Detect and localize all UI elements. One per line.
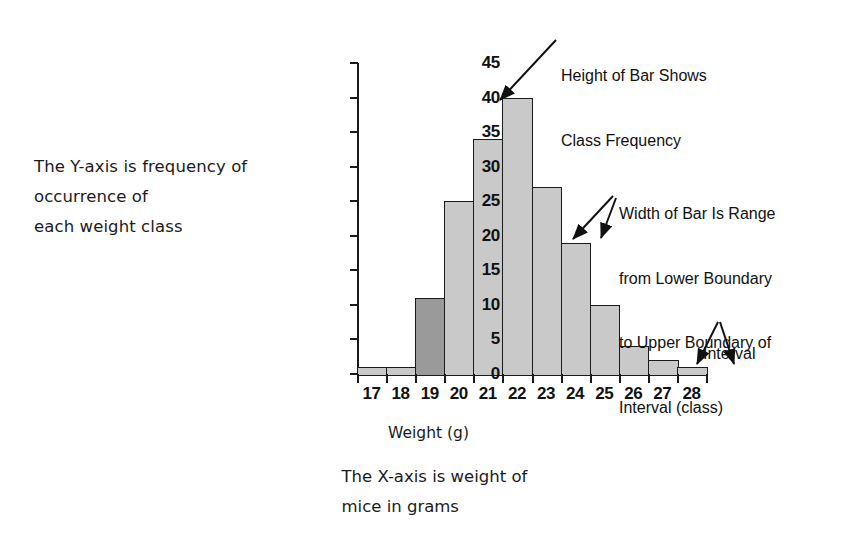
y-axis-explanation-line-1: The Y-axis is frequency of xyxy=(34,152,334,182)
y-tick-label-30: 30 xyxy=(456,157,500,177)
y-tick-label-5: 5 xyxy=(456,329,500,349)
histogram-bar-22 xyxy=(502,98,533,376)
histogram-bar-18 xyxy=(386,367,417,376)
histogram-bar-24 xyxy=(561,243,592,376)
y-tick-label-45: 45 xyxy=(456,53,500,73)
y-tick-35 xyxy=(350,131,358,133)
x-tick-8 xyxy=(590,374,592,383)
y-axis-explanation-note: The Y-axis is frequency of occurrence of… xyxy=(34,152,334,242)
annotation-height-line-1: Height of Bar Shows xyxy=(561,65,707,87)
y-axis-line xyxy=(357,63,359,374)
y-tick-label-10: 10 xyxy=(456,295,500,315)
x-tick-1 xyxy=(386,374,388,383)
x-tick-0 xyxy=(357,374,359,383)
x-tick-3 xyxy=(444,374,446,383)
histogram-bar-25 xyxy=(590,305,621,376)
annotation-interval-line-1: Interval xyxy=(703,343,755,365)
y-tick-label-0: 0 xyxy=(456,364,500,384)
y-tick-30 xyxy=(350,166,358,168)
y-tick-15 xyxy=(350,269,358,271)
x-axis-explanation-line-1: The X-axis is weight of xyxy=(314,462,544,492)
y-tick-10 xyxy=(350,304,358,306)
y-axis-explanation-line-3: each weight class xyxy=(34,212,334,242)
y-tick-label-20: 20 xyxy=(456,226,500,246)
y-tick-20 xyxy=(350,235,358,237)
histogram-bar-19 xyxy=(415,298,446,376)
y-tick-45 xyxy=(350,62,358,64)
x-tick-5 xyxy=(502,374,504,383)
y-axis-explanation-line-2: occurrence of xyxy=(34,182,334,212)
y-tick-label-25: 25 xyxy=(456,191,500,211)
annotation-width-line-1: Width of Bar Is Range xyxy=(619,203,776,225)
annotation-width-line-2: from Lower Boundary xyxy=(619,268,776,290)
annotation-height-line-2: Class Frequency xyxy=(561,130,707,152)
histogram-figure: The Y-axis is frequency of occurrence of… xyxy=(0,0,857,533)
y-tick-40 xyxy=(350,97,358,99)
x-tick-2 xyxy=(415,374,417,383)
histogram-bar-23 xyxy=(532,187,563,375)
x-tick-6 xyxy=(532,374,534,383)
y-tick-5 xyxy=(350,338,358,340)
x-axis-explanation-note: The X-axis is weight of mice in grams xyxy=(0,462,857,522)
x-tick-label-28: 28 xyxy=(671,384,711,404)
y-tick-label-15: 15 xyxy=(456,260,500,280)
y-tick-25 xyxy=(350,200,358,202)
y-tick-label-35: 35 xyxy=(456,122,500,142)
x-axis-explanation-line-2: mice in grams xyxy=(314,492,544,522)
x-tick-7 xyxy=(561,374,563,383)
y-tick-label-40: 40 xyxy=(456,88,500,108)
histogram-bar-17 xyxy=(357,367,388,376)
